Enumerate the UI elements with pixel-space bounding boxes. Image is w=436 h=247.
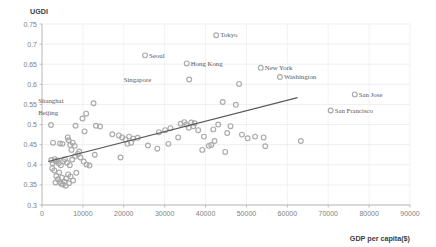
y-tick-label: 0.5 xyxy=(27,121,37,128)
point-annotation-label: Singapore xyxy=(124,76,152,83)
data-point xyxy=(258,65,263,70)
y-tick-label: 0.65 xyxy=(23,61,37,68)
point-annotation-label: San Jose xyxy=(359,91,383,98)
point-annotation-label: New York xyxy=(265,64,293,71)
data-point xyxy=(261,135,266,140)
point-annotation-label: Tokyo xyxy=(220,31,238,38)
x-tick-label: 30000 xyxy=(155,210,175,217)
x-tick-label: 90000 xyxy=(400,210,420,217)
data-point xyxy=(74,170,79,175)
data-point xyxy=(91,101,96,106)
y-tick-label: 0.75 xyxy=(23,21,37,28)
chart-canvas: 0.30.350.40.450.50.550.60.650.70.75 0100… xyxy=(0,0,436,247)
y-tick-label: 0.35 xyxy=(23,181,37,188)
data-point xyxy=(233,102,238,107)
data-point xyxy=(220,100,225,105)
point-annotation: Tokyo xyxy=(220,31,238,38)
data-point xyxy=(92,152,97,157)
data-point xyxy=(253,134,258,139)
point-annotation: San Francisco xyxy=(335,107,374,114)
point-annotation: Hong Kong xyxy=(191,60,224,67)
data-point xyxy=(166,141,171,146)
x-tick-label: 50000 xyxy=(237,210,257,217)
point-annotation-label: Seoul xyxy=(149,52,165,59)
y-tick-label: 0.3 xyxy=(27,202,37,209)
point-annotation: Shanghai xyxy=(38,97,63,104)
data-point xyxy=(81,159,86,164)
data-point xyxy=(328,108,333,113)
x-tick-label: 80000 xyxy=(359,210,379,217)
point-annotation: Washington xyxy=(284,73,317,80)
y-tick-label: 0.7 xyxy=(27,41,37,48)
point-annotation: New York xyxy=(265,64,293,71)
y-axis-title: UGDI xyxy=(30,7,48,16)
y-tick-label: 0.6 xyxy=(27,81,37,88)
data-point xyxy=(57,170,62,175)
x-tick-label: 20000 xyxy=(114,210,134,217)
y-tick-label: 0.4 xyxy=(27,161,37,168)
data-point xyxy=(184,61,189,66)
x-tick-label: 10000 xyxy=(73,210,93,217)
data-point xyxy=(278,75,283,80)
point-annotation-label: Beijing xyxy=(38,109,59,116)
data-point xyxy=(176,135,181,140)
point-annotation-label: Washington xyxy=(284,73,317,80)
point-annotation: San Jose xyxy=(359,91,383,98)
data-point xyxy=(143,53,148,58)
y-tick-label: 0.55 xyxy=(23,101,37,108)
data-point xyxy=(110,132,115,137)
data-point xyxy=(146,143,151,148)
x-tick-label: 60000 xyxy=(278,210,298,217)
point-annotation: Beijing xyxy=(38,109,59,116)
data-point xyxy=(73,123,78,128)
data-point xyxy=(187,77,192,82)
data-point xyxy=(80,116,85,121)
data-point xyxy=(155,146,160,151)
x-axis-title: GDP per capita($) xyxy=(350,234,411,243)
data-point xyxy=(237,82,242,87)
data-point xyxy=(352,92,357,97)
data-point xyxy=(212,139,217,144)
data-point xyxy=(223,150,228,155)
point-annotation: Singapore xyxy=(124,76,152,83)
data-point xyxy=(84,111,89,116)
x-tick-label: 0 xyxy=(40,210,44,217)
data-point xyxy=(200,147,205,152)
point-annotation-label: Shanghai xyxy=(38,97,63,104)
gridlines xyxy=(42,24,410,205)
data-point xyxy=(118,155,123,160)
data-point xyxy=(245,136,250,141)
data-point xyxy=(225,131,230,136)
data-point xyxy=(211,127,216,132)
data-point xyxy=(214,33,219,38)
x-tick-label: 40000 xyxy=(196,210,216,217)
data-point xyxy=(69,147,74,152)
data-point xyxy=(298,139,303,144)
data-point xyxy=(196,128,201,133)
data-point xyxy=(240,132,245,137)
x-tick-label: 70000 xyxy=(318,210,338,217)
point-annotation-label: San Francisco xyxy=(335,107,374,114)
x-tick-labels: 0100002000030000400005000060000700008000… xyxy=(40,210,420,217)
y-tick-labels: 0.30.350.40.450.50.550.60.650.70.75 xyxy=(23,21,37,209)
scatter-chart: 0.30.350.40.450.50.550.60.650.70.75 0100… xyxy=(0,0,436,247)
point-annotation-label: Hong Kong xyxy=(191,60,224,67)
data-point xyxy=(49,123,54,128)
y-tick-label: 0.45 xyxy=(23,141,37,148)
point-annotation: Seoul xyxy=(149,52,165,59)
